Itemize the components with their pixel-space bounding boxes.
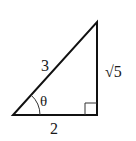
hypotenuse-label: 3 [41, 57, 49, 74]
horizontal-leg-label: 2 [50, 120, 58, 137]
vertical-leg-label: √5 [105, 63, 122, 80]
angle-label: θ [40, 93, 47, 109]
angle-arc [31, 95, 40, 115]
triangle [13, 22, 97, 115]
right-triangle-diagram: 3 √5 2 θ [0, 0, 136, 141]
right-angle-marker [85, 103, 97, 115]
